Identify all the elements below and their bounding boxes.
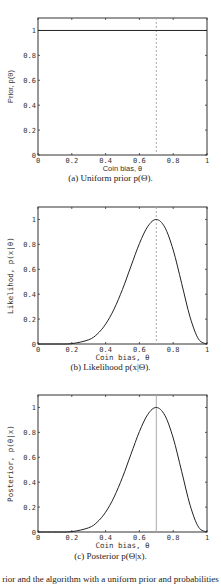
y-tick-label: 1 [32,404,36,412]
caption-posterior: (c) Posterior p(Θ|x). [0,551,221,561]
y-tick-label: 0.8 [23,52,36,60]
y-tick-label: 0.6 [23,266,36,274]
x-tick-label: 0 [36,346,40,354]
x-tick-label: 0.8 [167,534,180,542]
y-tick-label: 0.8 [23,429,36,437]
y-tick-label: 0 [32,341,36,349]
y-tick-label: 0.4 [23,102,36,110]
y-tick-label: 0 [32,529,36,537]
cut-off-body-text: rior and the algorithm with a uniform pr… [0,574,221,584]
x-tick-label: 1 [205,346,209,354]
y-tick-label: 0.8 [23,241,36,249]
x-axis-label: Coin bias, θ [103,164,143,172]
x-tick-label: 0.8 [167,346,180,354]
panel-posterior: 00.20.40.60.8100.20.40.60.81Coin bias, θ… [0,378,221,550]
prior-chart: 00.20.40.60.8100.20.40.60.81Coin bias, θ… [0,0,221,172]
x-tick-label: 1 [205,157,209,165]
plot-frame [38,395,207,532]
x-tick-label: 0.2 [65,157,78,165]
x-tick-label: 0.2 [65,534,78,542]
y-axis-label: Posterior, p(θ|x) [6,425,15,502]
posterior-curve [38,407,207,532]
y-tick-label: 0 [32,152,36,160]
y-tick-label: 1 [32,27,36,35]
x-axis-label: Coin bias, θ [95,541,150,550]
x-tick-label: 0.8 [167,157,180,165]
x-tick-label: 1 [205,534,209,542]
y-tick-label: 0.4 [23,291,36,299]
y-tick-label: 0.2 [23,127,36,135]
x-tick-label: 0.2 [65,346,78,354]
y-tick-label: 0.2 [23,504,36,512]
x-tick-label: 0 [36,534,40,542]
y-tick-label: 0.2 [23,316,36,324]
x-tick-label: 0 [36,157,40,165]
panel-prior: 00.20.40.60.8100.20.40.60.81Coin bias, θ… [0,0,221,172]
plot-frame [38,207,207,344]
likelihood-chart: 00.20.40.60.8100.20.40.60.81Coin bias, θ… [0,190,221,362]
caption-likelihood: (b) Likelihood p(x|Θ). [0,362,221,372]
y-tick-label: 1 [32,216,36,224]
x-axis-label: Coin bias, θ [95,353,150,362]
caption-prior: (a) Uniform prior p(Θ). [0,173,221,183]
y-tick-label: 0.6 [23,77,36,85]
y-tick-label: 0.6 [23,454,36,462]
likelihood-curve [38,219,207,344]
plot-frame [38,18,207,155]
posterior-chart: 00.20.40.60.8100.20.40.60.81Coin bias, θ… [0,378,221,550]
panel-likelihood: 00.20.40.60.8100.20.40.60.81Coin bias, θ… [0,190,221,362]
y-axis-label: Prior, p(θ) [6,70,15,103]
y-axis-label: Likelihod, p(x|θ) [6,237,15,314]
y-tick-label: 0.4 [23,479,36,487]
